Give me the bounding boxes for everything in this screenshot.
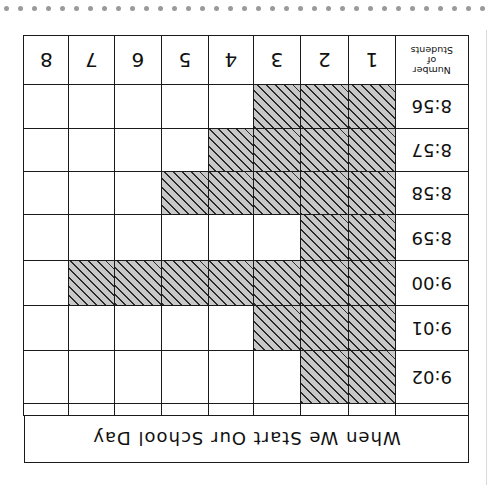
spacer-cell (68, 403, 116, 417)
empty-cell (114, 351, 163, 405)
y-axis-header: NumberofStudents (395, 36, 470, 86)
empty-cell (24, 306, 70, 353)
empty-cell (161, 84, 210, 131)
empty-cell (24, 84, 70, 131)
column-number: 1 (348, 36, 397, 86)
empty-cell (68, 172, 116, 217)
time-label: 8:56 (395, 84, 470, 131)
spacer-cell (114, 403, 163, 417)
empty-cell (208, 84, 255, 131)
empty-cell (114, 215, 163, 263)
shaded-cell (348, 306, 397, 353)
shaded-cell (253, 306, 302, 353)
spacer-cell (348, 403, 397, 417)
shaded-cell (208, 261, 255, 308)
header-text: Number (413, 65, 451, 75)
shaded-cell (253, 129, 302, 174)
empty-cell (161, 306, 210, 353)
empty-cell (114, 306, 163, 353)
column-number: 3 (253, 36, 302, 86)
empty-cell (161, 129, 210, 174)
header-text: of (427, 55, 436, 65)
shaded-cell (300, 129, 350, 174)
rotated-chart-sheet: 8:568:578:588:599:009:019:02NumberofStud… (0, 0, 493, 485)
empty-cell (114, 84, 163, 131)
shaded-cell (348, 172, 397, 217)
empty-cell (208, 215, 255, 263)
empty-cell (68, 84, 116, 131)
empty-cell (68, 215, 116, 263)
empty-cell (24, 215, 70, 263)
shaded-cell (348, 351, 397, 405)
empty-cell (24, 172, 70, 217)
spacer-cell (161, 403, 210, 417)
time-label: 9:00 (395, 261, 470, 308)
empty-cell (253, 351, 302, 405)
shaded-cell (300, 172, 350, 217)
spacer-cell (395, 403, 470, 417)
shaded-cell (348, 261, 397, 308)
empty-cell (68, 129, 116, 174)
spacer-cell (253, 403, 302, 417)
spacer-cell (208, 403, 255, 417)
empty-cell (114, 129, 163, 174)
column-number: 8 (24, 36, 70, 86)
shaded-cell (114, 261, 163, 308)
shaded-cell (348, 129, 397, 174)
shaded-cell (300, 261, 350, 308)
column-number: 2 (300, 36, 350, 86)
empty-cell (68, 351, 116, 405)
shaded-cell (208, 129, 255, 174)
shaded-cell (300, 215, 350, 263)
column-number: 6 (114, 36, 163, 86)
shaded-cell (348, 84, 397, 131)
chart-title: When We Start Our School Day (24, 415, 469, 463)
shaded-cell (253, 172, 302, 217)
empty-cell (208, 306, 255, 353)
shaded-cell (161, 261, 210, 308)
empty-cell (24, 261, 70, 308)
shaded-cell (300, 84, 350, 131)
empty-cell (161, 215, 210, 263)
empty-cell (161, 351, 210, 405)
shaded-cell (300, 306, 350, 353)
empty-cell (253, 215, 302, 263)
time-label: 9:01 (395, 306, 470, 353)
shaded-cell (68, 261, 116, 308)
column-number: 4 (208, 36, 255, 86)
shaded-cell (253, 261, 302, 308)
column-number: 5 (161, 36, 210, 86)
header-text: Students (411, 45, 453, 55)
spacer-cell (24, 403, 70, 417)
time-label: 8:58 (395, 172, 470, 217)
shaded-cell (253, 84, 302, 131)
empty-cell (24, 129, 70, 174)
time-label: 8:59 (395, 215, 470, 263)
empty-cell (24, 351, 70, 405)
spacer-cell (300, 403, 350, 417)
column-number: 7 (68, 36, 116, 86)
shaded-cell (348, 215, 397, 263)
time-label: 9:02 (395, 351, 470, 405)
empty-cell (208, 351, 255, 405)
empty-cell (114, 172, 163, 217)
shaded-cell (300, 351, 350, 405)
shaded-cell (161, 172, 210, 217)
shaded-cell (208, 172, 255, 217)
empty-cell (68, 306, 116, 353)
time-label: 8:57 (395, 129, 470, 174)
